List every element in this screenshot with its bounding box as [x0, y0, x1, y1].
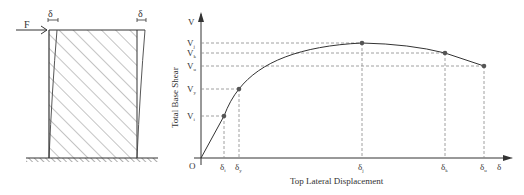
capacity-curve: [201, 43, 484, 158]
point-j: [360, 41, 365, 46]
x-tick-labels: δi δy δj δk δu: [220, 162, 487, 173]
svg-text:Vu: Vu: [187, 61, 197, 72]
svg-text:δi: δi: [220, 162, 226, 173]
pushover-curve-chart: V Vj Vk Vu Vy Vi O δi δy δj δk δu δ Top …: [170, 12, 513, 186]
ground-hatch: [26, 158, 158, 162]
svg-text:Vy: Vy: [187, 84, 197, 95]
svg-text:δk: δk: [441, 162, 448, 173]
point-y: [237, 87, 242, 92]
wall-hatched-body: [49, 30, 137, 158]
y-axis-end-label: V: [188, 17, 195, 27]
deformed-right-edge: [137, 30, 145, 158]
x-axis-end-label: δ: [497, 162, 501, 172]
origin-label: O: [189, 161, 196, 171]
wall-diagram: F δ δ: [16, 8, 158, 162]
force-label: F: [24, 19, 30, 30]
x-axis-title: Top Lateral Displacement: [290, 176, 384, 186]
guide-lines: [201, 43, 484, 158]
point-u: [482, 64, 487, 69]
svg-text:δy: δy: [235, 162, 242, 173]
svg-text:Vi: Vi: [187, 111, 196, 122]
point-k: [443, 51, 448, 56]
delta-left-label: δ: [48, 8, 53, 19]
y-axis-arrow-icon: [198, 12, 204, 22]
force-arrow-icon: [16, 26, 47, 34]
curve-points: [222, 41, 487, 119]
delta-right-label: δ: [138, 8, 143, 19]
y-axis-title: Total Base Shear: [170, 67, 180, 128]
svg-text:Vk: Vk: [187, 48, 197, 59]
y-tick-labels: Vj Vk Vu Vy Vi: [187, 38, 197, 122]
svg-text:δj: δj: [358, 162, 364, 173]
point-i: [222, 114, 227, 119]
x-axis-arrow-icon: [503, 155, 513, 161]
svg-text:δu: δu: [480, 162, 487, 173]
pushover-figure: F δ δ: [0, 0, 524, 195]
